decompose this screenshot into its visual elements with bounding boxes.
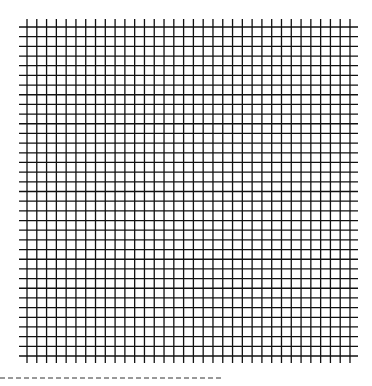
dashed-separator: [0, 0, 372, 386]
